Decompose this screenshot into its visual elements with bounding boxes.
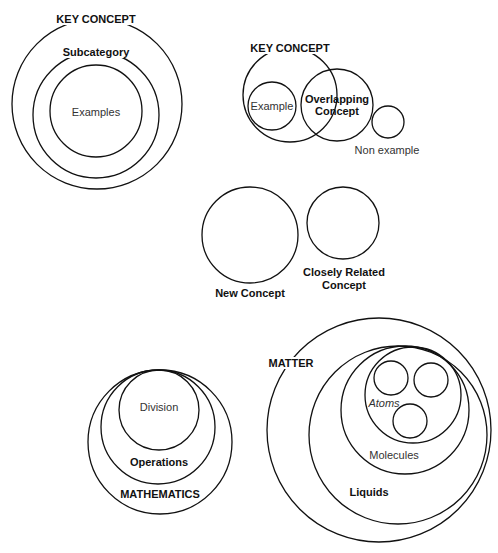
new-and-related-concept-circle: [202, 187, 298, 283]
concept-hierarchy-label: Examples: [70, 106, 122, 118]
matter-label: Atoms: [366, 397, 401, 409]
concept-hierarchy-label: KEY CONCEPT: [54, 13, 137, 25]
matter-diagram: [267, 318, 491, 542]
concept-circle-diagrams: [0, 0, 498, 553]
new-and-related-concept-circle: [307, 187, 379, 259]
new-and-related-concept-label: Closely Related: [301, 266, 387, 278]
matter-circle: [393, 404, 427, 438]
overlapping-concept-label: Non example: [353, 144, 422, 156]
matter-label: Molecules: [367, 449, 421, 461]
mathematics-label: MATHEMATICS: [118, 488, 202, 500]
matter-circle: [365, 347, 461, 443]
matter-circle: [309, 346, 487, 524]
matter-circle: [374, 361, 408, 395]
new-and-related-concept-label: New Concept: [213, 287, 287, 299]
overlapping-concept-label: Example: [249, 100, 296, 112]
overlapping-concept-label: Overlapping: [303, 93, 371, 105]
concept-hierarchy-diagram: [12, 19, 182, 189]
mathematics-label: Division: [138, 401, 181, 413]
matter-circle: [414, 363, 448, 397]
overlapping-concept-label: KEY CONCEPT: [248, 42, 331, 54]
new-and-related-concept-label: Concept: [320, 279, 368, 291]
matter-label: Liquids: [347, 486, 390, 498]
overlapping-concept-circle: [372, 106, 404, 138]
matter-label: MATTER: [266, 357, 315, 369]
concept-hierarchy-label: Subcategory: [61, 46, 132, 58]
overlapping-concept-label: Concept: [313, 105, 361, 117]
concept-hierarchy-circle: [12, 19, 182, 189]
mathematics-label: Operations: [128, 456, 190, 468]
